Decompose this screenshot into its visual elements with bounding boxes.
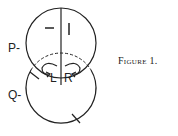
label-p: P- [8,41,20,55]
label-r: R [64,71,73,85]
figure-caption: Figure 1. [118,55,158,66]
figure-1: P- Q- L R Figure 1. [0,0,178,136]
label-l: L [50,71,57,85]
tick-mark-left [30,72,39,79]
label-q: Q- [8,88,21,102]
circles-diagram: P- Q- L R [0,0,178,136]
